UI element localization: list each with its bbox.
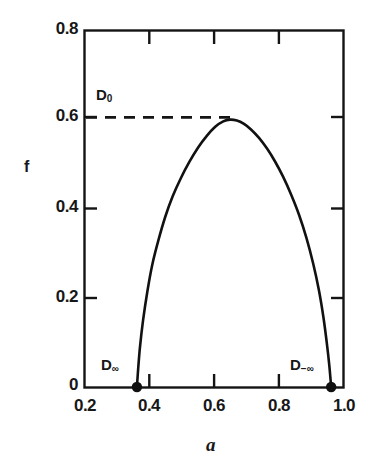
d-infinity-point-marker xyxy=(132,382,142,392)
d-infinity-label: D∞ xyxy=(101,356,119,373)
y-tick-label-0.2: 0.2 xyxy=(26,287,78,307)
y-tick-label-0.8: 0.8 xyxy=(26,19,78,39)
x-axis-ticks-bottom xyxy=(149,374,279,388)
axes-border xyxy=(85,31,344,388)
y-tick-label-0.4: 0.4 xyxy=(26,197,78,217)
x-tick-label-0.6: 0.6 xyxy=(188,396,240,416)
d-infinity-label-text: D xyxy=(101,356,112,373)
d-minus-infinity-label-text: D xyxy=(290,356,301,373)
d-minus-infinity-label-subscript: −∞ xyxy=(301,363,314,374)
y-tick-label-0.6: 0.6 xyxy=(26,106,78,126)
x-axis-title: a xyxy=(206,434,216,456)
d-minus-infinity-label: D−∞ xyxy=(290,356,314,373)
d-infinity-label-subscript: ∞ xyxy=(112,363,119,374)
d-minus-infinity-point-marker xyxy=(326,382,336,392)
plot-frame xyxy=(85,31,344,388)
d-zero-label-subscript: 0 xyxy=(107,93,113,104)
d-zero-label: D0 xyxy=(96,86,112,103)
x-tick-label-0.8: 0.8 xyxy=(253,396,305,416)
x-tick-label-0.4: 0.4 xyxy=(123,396,175,416)
chart-figure: 0.8 0.6 0.4 0.2 0 0.2 0.4 0.6 0.8 1.0 f … xyxy=(0,0,373,473)
x-tick-label-1.0: 1.0 xyxy=(318,396,370,416)
y-tick-label-0: 0 xyxy=(26,375,78,395)
y-axis-ticks xyxy=(85,117,98,298)
f-alpha-curve xyxy=(137,120,331,387)
y-axis-title: f xyxy=(24,158,29,176)
x-axis-ticks-top xyxy=(149,31,279,45)
d-zero-label-text: D xyxy=(96,86,107,103)
y-axis-ticks-right xyxy=(331,117,344,298)
x-tick-label-0.2: 0.2 xyxy=(59,396,111,416)
